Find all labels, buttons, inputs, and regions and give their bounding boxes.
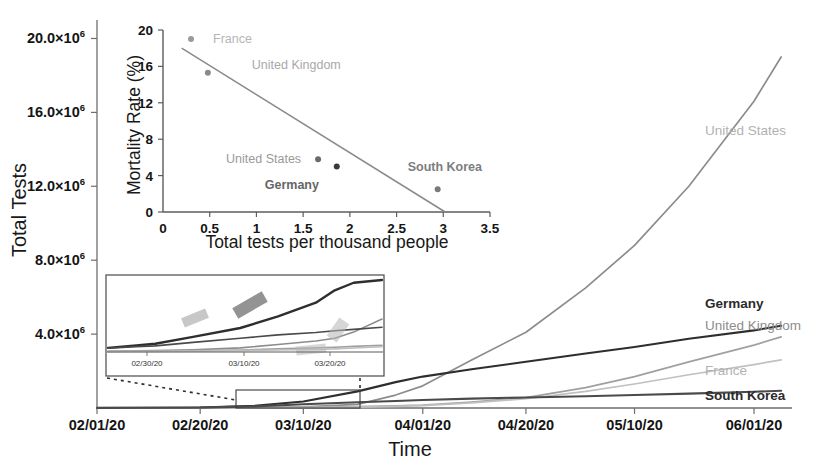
main-x-tick-label: 06/01/20 xyxy=(726,417,782,433)
scatter-point-united-states xyxy=(315,156,321,162)
main-y-tick-labels: 4.0×1068.0×10612.0×10616.0×10620.0×106 xyxy=(27,28,85,342)
main-y-tick-label: 12.0×106 xyxy=(27,176,85,194)
y-axis-title: Total Tests xyxy=(8,163,30,257)
main-y-tick-exponent: 6 xyxy=(80,176,85,187)
scatter-x-tick-label: 0 xyxy=(159,221,167,236)
main-y-tick-label: 16.0×106 xyxy=(27,102,85,120)
main-y-tick-label: 20.0×106 xyxy=(27,28,85,46)
main-x-tick-label: 02/20/20 xyxy=(172,417,228,433)
main-y-ticks xyxy=(91,38,97,334)
main-x-tick-labels: 02/01/2002/20/2003/10/2004/01/2004/20/20… xyxy=(69,417,782,433)
main-y-tick-exponent: 6 xyxy=(80,102,85,113)
main-y-tick-exponent: 6 xyxy=(80,250,85,261)
scatter-y-tick-label: 20 xyxy=(138,23,153,38)
scatter-x-axis-title: Total tests per thousand people xyxy=(205,232,448,252)
main-x-ticks xyxy=(97,408,754,414)
scatter-label-united-states: United States xyxy=(226,152,301,166)
series-label-united-kingdom: United Kingdom xyxy=(705,318,801,333)
x-axis-title: Time xyxy=(388,438,432,460)
scatter-y-axis-title: Mortality Rate (%) xyxy=(124,55,144,195)
scatter-point-germany xyxy=(334,164,340,170)
main-x-tick-label: 05/10/20 xyxy=(606,417,662,433)
series-label-south-korea: South Korea xyxy=(705,388,786,403)
main-series-labels: United StatesGermanyUnited KingdomFrance… xyxy=(705,123,801,403)
magnifier-date-label: 02/30/20 xyxy=(131,359,163,368)
scatter-point-south-korea xyxy=(435,186,441,192)
scatter-y-tick-label: 4 xyxy=(145,169,153,184)
scatter-label-germany: Germany xyxy=(265,178,319,192)
series-label-germany: Germany xyxy=(705,296,764,311)
scatter-x-ticks xyxy=(210,212,490,217)
magnifier-date-label: 03/20/20 xyxy=(314,359,346,368)
scatter-label-united-kingdom: United Kingdom xyxy=(252,58,341,72)
chart-svg: 4.0×1068.0×10612.0×10616.0×10620.0×106 0… xyxy=(0,0,818,462)
magnifier-inset: 02/30/2003/10/2003/20/20 xyxy=(106,275,384,376)
main-x-tick-label: 03/10/20 xyxy=(275,417,331,433)
scatter-label-france: France xyxy=(213,32,252,46)
main-y-tick-label: 4.0×106 xyxy=(35,324,85,342)
main-y-tick-exponent: 6 xyxy=(80,324,85,335)
scatter-point-labels: FranceUnited KingdomUnited StatesGermany… xyxy=(213,32,483,191)
series-label-united-states: United States xyxy=(705,123,786,138)
scatter-point-united-kingdom xyxy=(205,70,211,76)
scatter-y-tick-label: 8 xyxy=(145,132,153,147)
scatter-inset: 048121620 00.511.522.533.5 Mortality Rat… xyxy=(124,23,500,252)
magnifier-date-label: 03/10/20 xyxy=(228,359,260,368)
main-x-tick-label: 02/01/20 xyxy=(69,417,125,433)
scatter-y-ticks xyxy=(158,30,163,212)
main-y-tick-label: 8.0×106 xyxy=(35,250,85,268)
main-x-tick-label: 04/20/20 xyxy=(498,417,554,433)
scatter-point-france xyxy=(188,36,194,42)
main-y-tick-exponent: 6 xyxy=(80,28,85,39)
figure-root: 4.0×1068.0×10612.0×10616.0×10620.0×106 0… xyxy=(0,0,818,462)
scatter-y-tick-label: 0 xyxy=(145,205,153,220)
main-x-tick-label: 04/01/20 xyxy=(395,417,451,433)
magnifier-leader-left xyxy=(107,378,236,400)
scatter-x-tick-label: 3.5 xyxy=(481,221,500,236)
scatter-label-south-korea: South Korea xyxy=(408,160,483,174)
series-label-france: France xyxy=(705,363,747,378)
